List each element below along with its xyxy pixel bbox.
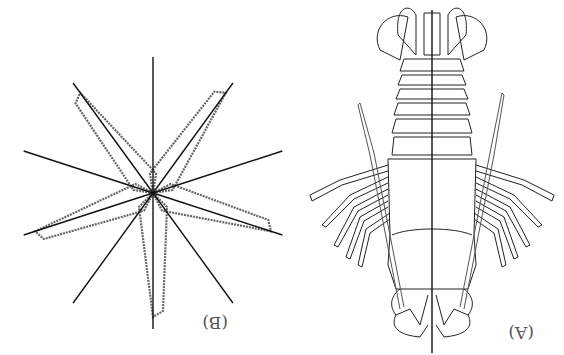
panel-b-label: (B) (202, 313, 228, 333)
panel-a-lobster: (A) (300, 0, 564, 355)
panel-a-label: (A) (508, 323, 534, 343)
panel-b-starfish: (B) (0, 0, 300, 355)
starfish-drawing (0, 0, 300, 355)
figure: (A) (0, 0, 564, 355)
lobster-drawing (300, 0, 564, 355)
